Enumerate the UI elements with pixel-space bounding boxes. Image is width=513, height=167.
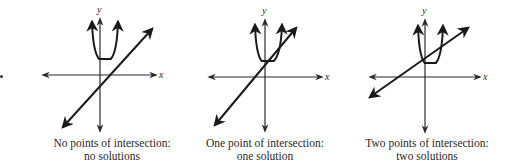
caption-line-2: no solutions (32, 150, 192, 163)
caption-line-2: one solution (185, 150, 345, 163)
x-axis-label: x (482, 71, 488, 82)
y-axis-label: y (261, 5, 267, 16)
panel-one-intersection: x y (209, 5, 330, 131)
caption-line-1: One point of intersection: (185, 137, 345, 150)
caption-no-intersection: No points of intersection: no solutions (32, 137, 192, 162)
parabola-curve (418, 26, 443, 63)
x-axis-label: x (324, 71, 330, 82)
caption-one-intersection: One point of intersection: one solution (185, 137, 345, 162)
caption-two-intersections: Two points of intersection: two solution… (347, 137, 507, 162)
intersection-diagram: x y x y x y No points of intersection: n… (0, 0, 513, 167)
panel-no-intersection: x y (43, 4, 164, 131)
parabola-curve (255, 25, 282, 61)
parabola-curve (92, 22, 118, 59)
caption-line-1: No points of intersection: (32, 137, 192, 150)
x-axis-label: x (158, 69, 164, 80)
panel-two-intersections: x y (370, 5, 488, 132)
linear-function-line (63, 29, 152, 127)
y-axis-label: y (421, 5, 427, 16)
y-axis-label: y (96, 4, 102, 15)
caption-line-1: Two points of intersection: (347, 137, 507, 150)
caption-line-2: two solutions (347, 150, 507, 163)
